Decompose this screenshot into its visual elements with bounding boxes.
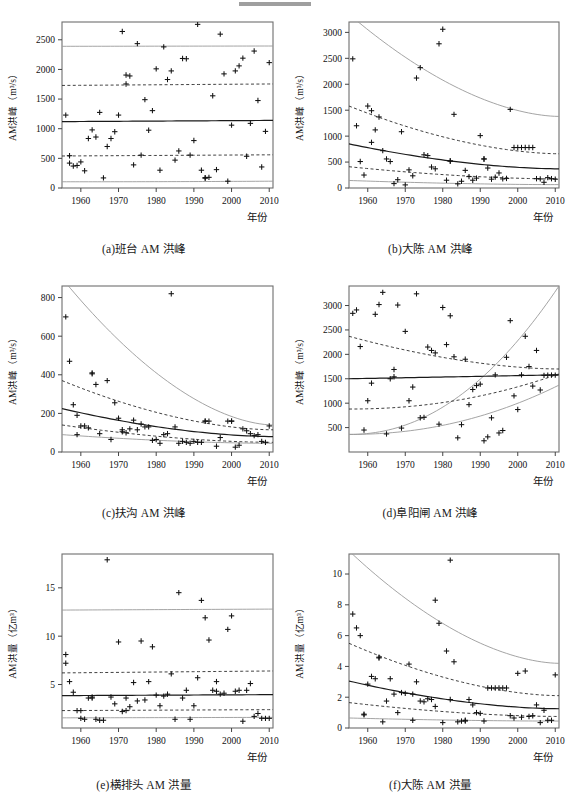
x-tick-label: 1990	[184, 460, 203, 470]
data-point-plus-marker	[225, 627, 230, 632]
data-point-plus-marker	[500, 428, 505, 433]
data-point-plus-marker	[153, 437, 158, 442]
x-tick-label: 1960	[358, 736, 377, 746]
data-point-plus-marker	[199, 440, 204, 445]
data-point-plus-marker	[112, 129, 117, 134]
quantile-line-upper-mid-dashed	[62, 84, 273, 85]
data-point-plus-marker	[519, 372, 524, 377]
y-axis-label: AM洪峰（m³/s）	[7, 69, 18, 141]
data-point-plus-marker	[71, 163, 76, 168]
plot-frame	[62, 22, 273, 188]
y-tick-label: 0	[50, 447, 55, 457]
data-point-plus-marker	[210, 688, 215, 693]
y-tick-label: 2000	[36, 65, 55, 75]
y-axis-label: AM洪量（亿m³）	[7, 603, 18, 679]
data-point-plus-marker	[229, 418, 234, 423]
data-point-plus-marker	[123, 81, 128, 86]
x-tick-label: 2010	[546, 460, 565, 470]
x-tick-label: 2010	[546, 736, 565, 746]
data-point-plus-marker	[180, 695, 185, 700]
plot-frame	[62, 286, 273, 452]
data-point-plus-marker	[433, 704, 438, 709]
y-axis-label: AM洪峰（m³/s）	[7, 333, 18, 405]
data-point-plus-marker	[455, 181, 460, 186]
data-point-plus-marker	[519, 715, 524, 720]
data-point-plus-marker	[131, 162, 136, 167]
data-point-plus-marker	[184, 56, 189, 61]
x-axis-label: 年份	[533, 751, 554, 763]
data-point-plus-marker	[169, 68, 174, 73]
data-point-plus-marker	[172, 157, 177, 162]
x-tick-label: 1980	[433, 460, 452, 470]
data-point-plus-marker	[142, 97, 147, 102]
x-tick-label: 1980	[147, 736, 166, 746]
data-point-plus-marker	[146, 127, 151, 132]
data-point-plus-marker	[466, 402, 471, 407]
data-point-plus-marker	[403, 329, 408, 334]
y-tick-label: 1500	[36, 94, 55, 104]
data-point-plus-marker	[105, 557, 110, 562]
data-point-plus-marker	[553, 372, 558, 377]
data-point-plus-marker	[74, 163, 79, 168]
data-point-plus-marker	[233, 68, 238, 73]
data-point-plus-marker	[78, 159, 83, 164]
data-point-plus-marker	[135, 698, 140, 703]
data-point-plus-marker	[191, 138, 196, 143]
x-axis-label: 年份	[247, 751, 268, 763]
y-tick-label: 2000	[323, 350, 342, 360]
data-point-plus-marker	[485, 165, 490, 170]
x-tick-label: 1960	[71, 460, 90, 470]
y-tick-label: 200	[41, 409, 56, 419]
data-point-plus-marker	[448, 158, 453, 163]
data-point-plus-marker	[116, 112, 121, 117]
data-point-plus-marker	[225, 178, 230, 183]
data-point-plus-marker	[496, 170, 501, 175]
y-tick-label: 0	[50, 183, 55, 193]
data-point-plus-marker	[105, 378, 110, 383]
data-point-plus-marker	[67, 679, 72, 684]
data-point-plus-marker	[206, 637, 211, 642]
y-tick-label: 1500	[323, 106, 342, 116]
data-point-plus-marker	[240, 55, 245, 60]
data-point-plus-marker	[63, 314, 68, 319]
data-point-plus-marker	[165, 77, 170, 82]
data-point-plus-marker	[214, 167, 219, 172]
data-point-plus-marker	[89, 695, 94, 700]
data-point-plus-marker	[97, 431, 102, 436]
data-point-plus-marker	[429, 348, 434, 353]
y-tick-label: 500	[328, 423, 343, 433]
data-point-plus-marker	[89, 127, 94, 132]
data-point-plus-marker	[161, 432, 166, 437]
data-point-plus-marker	[255, 711, 260, 716]
data-point-plus-marker	[116, 639, 121, 644]
data-point-plus-marker	[138, 638, 143, 643]
data-point-plus-marker	[199, 598, 204, 603]
data-point-plus-marker	[131, 417, 136, 422]
quantile-line-upper-quantile-solid	[349, 286, 559, 434]
data-point-plus-marker	[202, 176, 207, 181]
data-point-plus-marker	[229, 613, 234, 618]
data-point-plus-marker	[86, 136, 91, 141]
quantile-line-upper-quantile-solid	[349, 551, 559, 663]
data-point-plus-marker	[496, 430, 501, 435]
x-tick-label: 1980	[433, 736, 452, 746]
data-point-plus-marker	[267, 716, 272, 721]
data-point-plus-marker	[176, 590, 181, 595]
data-point-plus-marker	[410, 718, 415, 723]
data-point-plus-marker	[504, 685, 509, 690]
x-axis-label: 年份	[247, 211, 268, 223]
data-point-plus-marker	[135, 427, 140, 432]
data-point-plus-marker	[376, 114, 381, 119]
data-point-plus-marker	[191, 703, 196, 708]
figure-root: 0500100015002000250019601970198019902000…	[0, 0, 573, 811]
y-tick-label: 1000	[323, 399, 342, 409]
y-tick-label: 400	[41, 370, 56, 380]
data-point-plus-marker	[481, 438, 486, 443]
y-tick-label: 1500	[323, 374, 342, 384]
plot-frame	[349, 22, 559, 188]
y-tick-label: 6	[337, 631, 342, 641]
data-point-plus-marker	[142, 697, 147, 702]
quantile-line-lower-mid-dashed	[62, 710, 273, 711]
data-point-plus-marker	[150, 438, 155, 443]
data-point-plus-marker	[406, 398, 411, 403]
